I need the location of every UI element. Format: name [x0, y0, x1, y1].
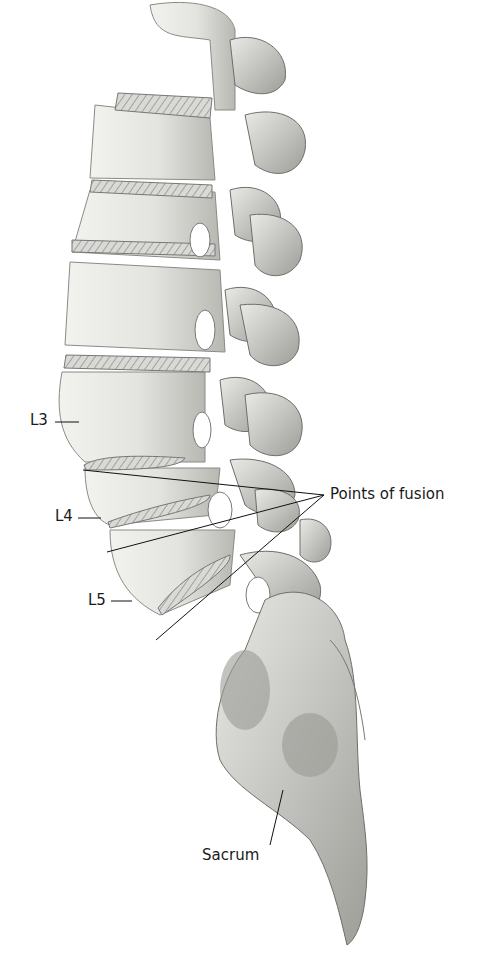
label-l3: L3 — [30, 413, 48, 428]
label-l5: L5 — [88, 593, 106, 608]
label-l4: L4 — [55, 509, 73, 524]
posterior-processes — [220, 37, 331, 612]
sacrum — [216, 592, 367, 945]
label-points-of-fusion: Points of fusion — [330, 487, 445, 502]
label-sacrum: Sacrum — [202, 848, 259, 863]
